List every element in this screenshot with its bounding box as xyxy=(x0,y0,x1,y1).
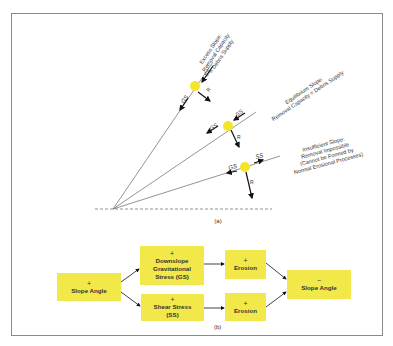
sign-plus: + xyxy=(243,257,247,264)
excess-slope-ball xyxy=(190,81,200,91)
insufficient-slope-ball xyxy=(240,162,250,172)
box-label: Shear Stress xyxy=(154,303,192,311)
box-label: (SS) xyxy=(166,311,178,319)
svg-text:GS: GS xyxy=(208,122,219,132)
excess-slope-forces: GS SS R xyxy=(180,66,213,110)
caption-b: (b) xyxy=(214,324,221,330)
slope-angle-input-box: + Slope Angle xyxy=(57,273,121,301)
box-label: Gravitational xyxy=(153,265,191,273)
erosion-bottom-box: + Erosion xyxy=(225,293,266,321)
svg-text:GS: GS xyxy=(180,94,190,105)
excess-slope-label: Excess Slope: Removal Capacity > Debris … xyxy=(195,29,236,77)
svg-text:R: R xyxy=(205,86,212,93)
erosion-top-box: + Erosion xyxy=(225,250,266,279)
box-label: Erosion xyxy=(234,264,257,272)
sign-plus: + xyxy=(87,280,91,287)
svg-text:Removal Capacity = Debris Supp: Removal Capacity = Debris Supply xyxy=(271,69,345,122)
insufficient-slope-label: Insufficient Slope: Removal Impossible (… xyxy=(288,132,364,175)
svg-text:SS: SS xyxy=(255,152,264,160)
shear-stress-box: + Shear Stress (SS) xyxy=(141,294,204,321)
equilibrium-slope-label: Equilibrium Slope: Removal Capacity = De… xyxy=(267,64,345,122)
svg-text:R: R xyxy=(237,134,241,140)
sign-plus: + xyxy=(243,300,247,307)
box-label: Slope Angle xyxy=(71,287,107,295)
sign-plus: + xyxy=(170,250,174,257)
downslope-gravitational-stress-box: + Downslope Gravitational Stress (GS) xyxy=(140,246,204,285)
insufficient-slope-forces: GS SS R xyxy=(227,152,264,198)
equilibrium-slope-line xyxy=(113,112,256,209)
sign-plus: + xyxy=(170,296,174,303)
insufficient-slope-line xyxy=(113,156,280,209)
caption-a: (a) xyxy=(214,218,221,224)
box-label: Stress (GS) xyxy=(155,273,189,281)
box-label: Downslope xyxy=(155,257,188,265)
box-label: Slope Angle xyxy=(301,284,337,292)
svg-text:SS: SS xyxy=(234,108,244,117)
equilibrium-slope-ball xyxy=(223,121,233,131)
svg-text:R: R xyxy=(250,179,254,185)
sign-minus: − xyxy=(317,277,321,284)
box-label: Erosion xyxy=(234,307,257,315)
slope-angle-output-box: − Slope Angle xyxy=(287,270,351,299)
